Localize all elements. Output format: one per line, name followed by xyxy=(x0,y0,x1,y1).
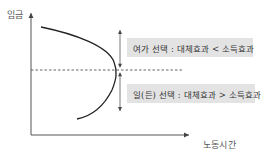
lower-region-label: 일(든) 선택 : 대체효과 > 소득효과 xyxy=(133,88,261,100)
upper-region-box: 여가 선택 : 대체효과 < 소득효과 xyxy=(127,38,253,57)
y-axis-label: 임금 xyxy=(7,8,23,21)
labor-supply-diagram: 임금 노동시간 여가 선택 : 대체효과 < 소득효과 일(든) 선택 : 대체… xyxy=(0,0,274,159)
diagram-graphics xyxy=(0,0,274,159)
labor-supply-curve xyxy=(41,27,116,119)
x-axis-label: 노동시간 xyxy=(203,138,236,151)
lower-region-box: 일(든) 선택 : 대체효과 > 소득효과 xyxy=(127,84,255,103)
upper-region-label: 여가 선택 : 대체효과 < 소득효과 xyxy=(133,42,254,54)
